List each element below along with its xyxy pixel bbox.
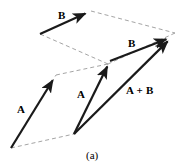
figure-caption: (a) — [86, 150, 98, 161]
dashed-line-lower-parallelogram-bottom — [11, 134, 74, 148]
dashed-line-upper-parallelogram-top — [91, 11, 175, 33]
vector-label-b-right: B — [128, 38, 136, 49]
vector-label-a-left: A — [17, 104, 25, 115]
dashed-construction-lines — [11, 11, 175, 148]
vector-addition-figure: BBAAA + B (a) — [0, 0, 181, 167]
solid-vector-arrows — [11, 14, 168, 148]
vector-label-b-top: B — [58, 10, 66, 21]
vector-diagram-canvas — [0, 0, 181, 167]
vector-label-a-middle: A — [77, 89, 85, 100]
vector-label-a-plus-b: A + B — [126, 85, 153, 96]
dashed-line-lower-parallelogram-top — [56, 64, 108, 75]
vector-arrow-a-middle — [74, 67, 107, 134]
dashed-line-upper-parallelogram-bottom — [40, 34, 108, 64]
